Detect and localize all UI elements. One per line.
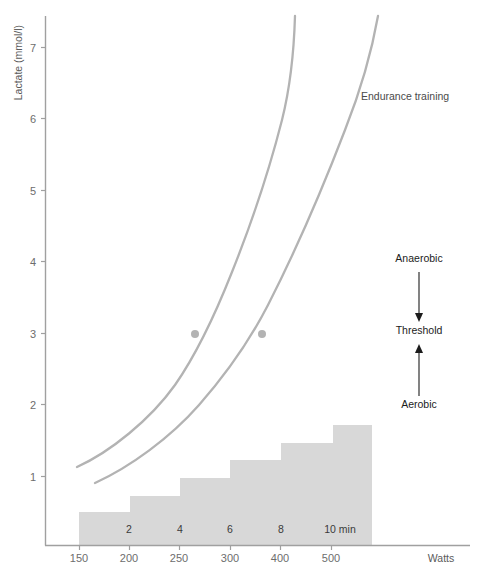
x-tick-label-250: 250 [170,552,188,564]
aerobic-label: Aerobic [401,398,437,410]
y-tick-label-7: 7 [30,42,36,54]
step-bar-3 [180,478,230,545]
x-tick-label-500: 500 [322,552,340,564]
step-bar-1 [79,512,130,545]
step-bar-2 [130,496,180,545]
y-axis-title: Lactate (mmol/l) [12,25,24,100]
anaerobic-label: Anaerobic [395,252,442,264]
y-tick-label-5: 5 [30,185,36,197]
x-axis-ticks: 150 200 250 300 400 500 [70,545,340,564]
x-tick-label-300: 300 [221,552,239,564]
threshold-marker-endurance [258,330,266,338]
anaerobic-arrow-head-icon [415,313,423,322]
y-axis-ticks: 7 6 5 4 3 2 1 [30,42,45,483]
x-axis-title: Watts [428,552,454,564]
step-time-label-3: 6 [227,523,233,535]
endurance-training-curve-label: Endurance training [361,90,449,102]
x-tick-label-400: 400 [271,552,289,564]
y-tick-label-3: 3 [30,328,36,340]
lactate-threshold-chart: 2 4 6 8 10 min 7 6 5 4 3 2 1 [0,0,482,577]
step-time-label-1: 2 [126,523,132,535]
step-bar-4 [230,460,281,545]
step-time-label-4: 8 [278,523,284,535]
step-time-label-2: 4 [177,523,183,535]
x-tick-label-200: 200 [120,552,138,564]
threshold-label: Threshold [396,324,443,336]
y-tick-label-2: 2 [30,399,36,411]
lactate-curves [77,16,378,483]
step-time-label-5: 10 min [324,523,356,535]
lactate-curve-untrained [77,16,295,467]
threshold-annotation-group: Anaerobic Threshold Aerobic [395,252,442,410]
threshold-marker-untrained [191,330,199,338]
x-tick-label-150: 150 [70,552,88,564]
y-tick-label-4: 4 [30,256,36,268]
y-tick-label-1: 1 [30,471,36,483]
y-tick-label-6: 6 [30,113,36,125]
lactate-curve-endurance [95,16,378,483]
chart-canvas: 2 4 6 8 10 min 7 6 5 4 3 2 1 [0,0,482,577]
